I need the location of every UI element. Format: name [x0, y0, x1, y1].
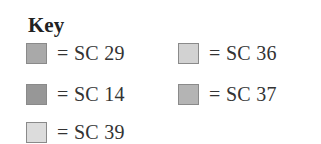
color-swatch — [26, 43, 47, 64]
color-swatch — [26, 84, 47, 105]
key-title: Key — [28, 13, 64, 38]
key-entry-sc14: = SC 14 — [26, 82, 125, 106]
key-entry-sc37: = SC 37 — [178, 82, 277, 106]
key-entry-sc39: = SC 39 — [26, 120, 125, 144]
key-entry-label: = SC 37 — [209, 83, 277, 106]
key-entry-label: = SC 39 — [57, 121, 125, 144]
key-entry-sc29: = SC 29 — [26, 41, 125, 65]
color-swatch — [178, 84, 199, 105]
key-entry-sc36: = SC 36 — [178, 41, 277, 65]
key-entry-label: = SC 36 — [209, 42, 277, 65]
color-swatch — [178, 43, 199, 64]
key-entry-label: = SC 29 — [57, 42, 125, 65]
color-swatch — [26, 122, 47, 143]
key-entry-label: = SC 14 — [57, 83, 125, 106]
